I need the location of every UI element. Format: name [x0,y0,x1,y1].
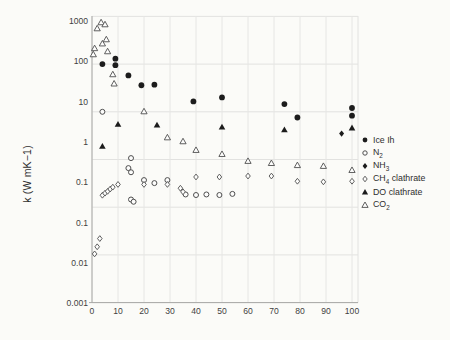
data-point-ch4-clathrate [116,182,121,188]
data-point-ch4-clathrate [217,174,222,180]
legend-label-do-clathrate: DO clathrate [373,187,422,197]
data-point-co2 [111,81,117,87]
data-point-co2 [219,151,225,157]
data-point-co2 [193,147,199,153]
legend-item-ch4-clathrate: CH4 clathrate [360,172,425,185]
legend-label-ice-ih: Ice Ih [373,135,395,145]
data-point-ice-ih [282,101,288,107]
y-tick-label: 100 [38,56,88,66]
nh3-marker-icon [360,161,370,171]
legend-label-ch4-clathrate: CH4 clathrate [373,173,425,185]
legend-label-n2: N2 [373,147,383,159]
data-point-do-clathrate [219,124,226,130]
legend: Ice IhN2NH3CH4 clathrateDO clathrateCO2 [360,133,425,211]
data-point-n2 [152,181,157,186]
legend-item-co2: CO2 [360,198,425,211]
data-point-n2 [194,193,199,198]
data-point-co2 [103,36,109,42]
n2-marker-icon [360,148,370,158]
data-point-ice-ih [295,115,301,121]
data-point-n2 [217,193,222,198]
y-tick-label: 0.1 [38,218,88,228]
data-point-ice-ih [349,105,355,111]
data-point-co2 [90,51,96,57]
data-point-n2 [230,191,235,196]
data-point-co2 [94,25,100,31]
data-point-ch4-clathrate [194,174,199,180]
data-point-do-clathrate [281,126,288,132]
y-tick-label: 10 [38,97,88,107]
data-point-co2 [110,71,116,77]
data-point-co2 [180,138,186,144]
data-point-n2 [129,170,134,175]
data-point-ice-ih [100,61,106,67]
data-point-n2 [131,199,136,204]
data-point-ice-ih [113,62,119,68]
legend-item-n2: N2 [360,146,425,159]
data-point-ch4-clathrate [295,178,300,184]
legend-label-nh3: NH3 [373,160,389,172]
data-point-ice-ih [191,99,197,105]
data-point-do-clathrate [115,121,122,127]
data-point-ch4-clathrate [92,251,97,257]
data-point-ice-ih [219,95,225,101]
y-tick-label: 1 [38,137,88,147]
data-point-n2 [100,109,105,114]
data-point-ch4-clathrate [246,173,251,179]
do-clathrate-marker-icon [360,187,370,197]
data-point-ch4-clathrate [269,173,274,179]
data-point-n2 [129,156,134,161]
y-tick-label: 0.1 [38,177,88,187]
x-tick-label: 100 [337,306,367,316]
data-point-ice-ih [139,82,145,88]
data-point-ch4-clathrate [98,236,103,242]
data-point-co2 [141,108,147,114]
data-point-ice-ih [125,72,131,78]
data-point-ch4-clathrate [321,179,326,185]
data-point-co2 [105,48,111,54]
data-point-ch4-clathrate [350,178,355,184]
data-point-n2 [204,192,209,197]
data-point-ch4-clathrate [95,244,100,250]
legend-item-do-clathrate: DO clathrate [360,185,425,198]
data-point-co2 [349,167,355,173]
data-point-ice-ih [113,56,119,62]
ice-ih-marker-icon [360,135,370,145]
y-tick-label: 0.01 [38,258,88,268]
legend-item-nh3: NH3 [360,159,425,172]
data-point-do-clathrate [154,122,161,128]
data-point-co2 [245,158,251,164]
legend-label-co2: CO2 [373,199,390,211]
data-point-do-clathrate [99,143,106,149]
y-tick-label: 1000 [38,16,88,26]
data-point-ice-ih [152,82,158,88]
legend-item-ice-ih: Ice Ih [360,133,425,146]
co2-marker-icon [360,200,370,210]
data-point-ice-ih [349,113,355,119]
data-point-do-clathrate [349,125,356,131]
figure: k (W mK−1) 10001001010.10.10.010.001 010… [0,0,450,340]
data-point-nh3 [339,130,344,136]
ch4-clathrate-marker-icon [360,174,370,184]
